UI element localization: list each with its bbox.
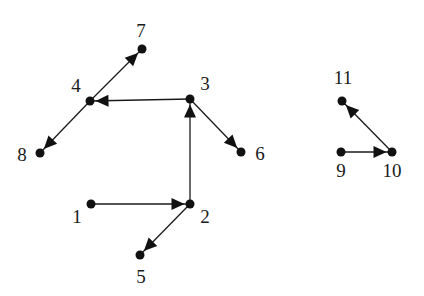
edge-2-to-5 <box>140 204 190 255</box>
edge-4-to-7 <box>90 49 142 101</box>
node-label-11: 11 <box>334 67 352 88</box>
node-9 <box>337 148 346 157</box>
edge-3-to-6 <box>190 99 241 152</box>
node-10 <box>388 148 397 157</box>
node-8 <box>36 149 45 158</box>
edge-1-to-2 <box>91 198 190 210</box>
graph-diagram: 1234567891011 <box>0 0 424 296</box>
node-1 <box>87 200 96 209</box>
node-7 <box>138 45 147 54</box>
node-2 <box>186 200 195 209</box>
edge-4-to-8 <box>40 101 90 153</box>
node-label-1: 1 <box>72 206 82 227</box>
node-label-2: 2 <box>200 206 210 227</box>
node-11 <box>338 97 347 106</box>
node-4 <box>86 97 95 106</box>
node-label-5: 5 <box>136 266 146 287</box>
edge-10-to-11 <box>342 101 392 152</box>
arrowhead-icon <box>184 105 196 118</box>
node-label-10: 10 <box>383 160 402 181</box>
edge-3-to-4 <box>90 95 190 107</box>
node-label-7: 7 <box>136 20 146 41</box>
edge-9-to-10 <box>341 146 392 158</box>
node-6 <box>237 148 246 157</box>
arrowhead-icon <box>374 146 387 158</box>
node-label-3: 3 <box>200 73 210 94</box>
node-label-4: 4 <box>71 75 81 96</box>
arrowhead-icon <box>95 95 108 107</box>
arrowhead-icon <box>172 198 185 210</box>
node-label-9: 9 <box>336 160 346 181</box>
edge-2-to-3 <box>184 99 196 204</box>
node-label-8: 8 <box>17 144 27 165</box>
node-5 <box>136 251 145 260</box>
node-label-6: 6 <box>255 143 265 164</box>
node-3 <box>186 95 195 104</box>
